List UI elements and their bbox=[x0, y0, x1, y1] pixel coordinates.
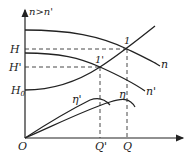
label-Q-prime: Q' bbox=[95, 140, 107, 153]
pump-curve-diagram: n>n' H H' H0 O Q' Q 1 1' n n' η' η bbox=[0, 0, 191, 160]
label-H: H bbox=[9, 43, 20, 56]
label-eta: η bbox=[119, 88, 126, 101]
label-H0: H0 bbox=[10, 84, 26, 98]
label-point-1: 1 bbox=[124, 35, 130, 46]
label-curve-n-prime: n' bbox=[146, 85, 156, 98]
label-H-prime: H' bbox=[8, 61, 22, 74]
label-eta-prime: η' bbox=[72, 93, 82, 106]
label-curve-n: n bbox=[161, 58, 168, 71]
label-Q: Q bbox=[123, 140, 132, 153]
head-curve-n bbox=[25, 30, 160, 66]
label-origin: O bbox=[18, 140, 27, 153]
y-axis-label: n>n' bbox=[29, 6, 53, 17]
label-point-1-prime: 1' bbox=[95, 54, 104, 65]
